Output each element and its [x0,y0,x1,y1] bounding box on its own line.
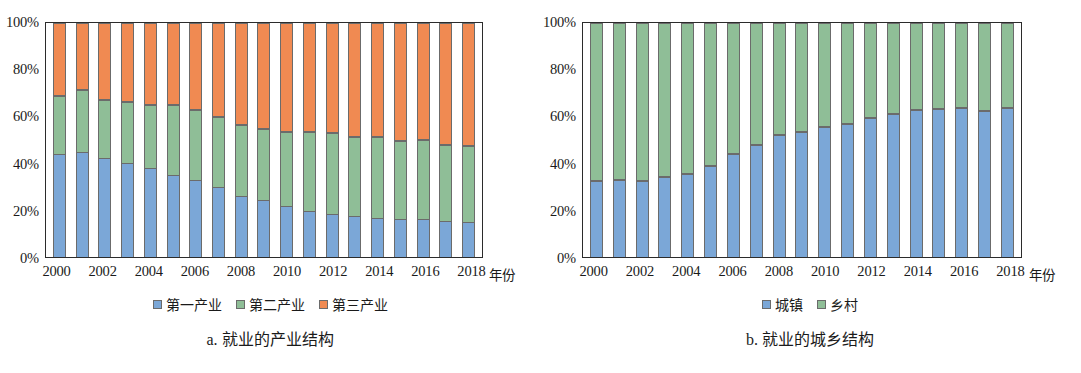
legend-swatch-icon [153,300,162,309]
legend-item: 第二产业 [236,294,305,314]
bar-segment-第三产业 [98,23,111,100]
caption-a: a. 就业的产业结构 [0,326,540,350]
bar-segment-城镇 [910,110,923,257]
bar-segment-第三产业 [212,23,225,117]
bar-segment-乡村 [818,23,831,127]
legend-label: 城镇 [775,294,803,314]
legend-swatch-icon [319,300,328,309]
bar-segment-第一产业 [212,187,225,257]
bar-segment-乡村 [1001,23,1014,108]
bar-2013 [348,23,361,257]
legend-b: 城镇乡村 [540,294,1080,314]
bar-segment-乡村 [704,23,717,166]
x-tick-label: 2002 [89,263,117,280]
legend-swatch-icon [817,300,826,309]
bar-segment-第三产业 [417,23,430,140]
x-tick-label: 2002 [626,263,654,280]
bar-segment-乡村 [864,23,877,118]
plot-wrap-b [582,22,1022,262]
y-tick-label: 20% [550,202,576,219]
bar-segment-第三产业 [167,23,180,105]
legend-item: 第三产业 [319,294,388,314]
x-tick-label: 2004 [135,263,163,280]
bar-2016 [955,23,968,257]
bar-segment-第二产业 [189,110,202,180]
legend-item: 城镇 [762,294,803,314]
bar-2002 [636,23,649,257]
bar-segment-第一产业 [189,180,202,257]
bar-segment-第一产业 [462,222,475,257]
bar-2009 [257,23,270,257]
bar-2009 [795,23,808,257]
bar-segment-第三产业 [371,23,384,137]
figure-two-stacked-bar-charts: 100%80%60%40%20%0% 200020022004200620082… [0,0,1081,373]
bar-2017 [978,23,991,257]
bar-2005 [167,23,180,257]
x-tick-label: 2018 [457,263,485,280]
x-tick-label: 2016 [950,263,978,280]
bar-segment-第二产业 [53,96,66,155]
bar-segment-乡村 [773,23,786,135]
bar-2013 [887,23,900,257]
plot-area-b [582,22,1022,258]
legend-a: 第一产业第二产业第三产业 [0,294,540,314]
bar-segment-第二产业 [98,100,111,159]
bar-segment-第二产业 [257,129,270,199]
x-axis-ticks-a: 2000200220042006200820102012201420162018 [45,262,483,284]
bar-segment-城镇 [818,127,831,257]
bar-segment-城镇 [978,111,991,257]
bar-segment-城镇 [955,108,968,257]
bar-2001 [76,23,89,257]
bar-segment-城镇 [1001,108,1014,257]
x-tick-label: 2010 [273,263,301,280]
bar-segment-城镇 [681,174,694,257]
bar-segment-第三产业 [76,23,89,90]
x-tick-label: 2004 [672,263,700,280]
bar-2010 [818,23,831,257]
legend-label: 第二产业 [249,294,305,314]
bar-segment-乡村 [658,23,671,177]
bar-segment-乡村 [613,23,626,180]
bar-segment-第二产业 [167,105,180,175]
y-tick-label: 20% [13,202,39,219]
x-tick-label: 2008 [227,263,255,280]
bar-2003 [658,23,671,257]
bar-segment-第二产业 [144,105,157,168]
x-tick-label: 2000 [579,263,607,280]
y-axis-labels-a: 100%80%60%40%20%0% [0,22,44,262]
bar-2006 [727,23,740,257]
bar-segment-第三产业 [144,23,157,105]
bar-segment-城镇 [773,135,786,257]
bar-segment-第二产业 [371,137,384,218]
bar-segment-乡村 [887,23,900,114]
legend-label: 第三产业 [332,294,388,314]
bar-segment-第一产业 [144,168,157,257]
bar-2015 [932,23,945,257]
bar-segment-第二产业 [303,132,316,211]
bar-segment-乡村 [955,23,968,108]
bar-2004 [681,23,694,257]
bar-segment-城镇 [795,132,808,257]
x-tick-label: 2008 [765,263,793,280]
bar-segment-乡村 [750,23,763,145]
x-axis-title-b: 年份 [1029,264,1055,284]
bar-2008 [773,23,786,257]
bar-segment-城镇 [590,181,603,257]
bar-segment-第一产业 [280,206,293,257]
bar-2018 [462,23,475,257]
bar-segment-第二产业 [439,145,452,221]
bar-segment-第一产业 [76,152,89,257]
x-tick-label: 2014 [904,263,932,280]
bar-segment-第一产业 [326,214,339,257]
x-tick-label: 2018 [996,263,1024,280]
bar-2004 [144,23,157,257]
bar-2005 [704,23,717,257]
bar-segment-第一产业 [417,219,430,257]
bar-2007 [750,23,763,257]
bar-2001 [613,23,626,257]
bar-2006 [189,23,202,257]
bar-segment-第二产业 [212,117,225,187]
x-axis-ticks-b: 2000200220042006200820102012201420162018 [582,262,1022,284]
y-tick-label: 100% [543,14,576,31]
bar-2010 [280,23,293,257]
